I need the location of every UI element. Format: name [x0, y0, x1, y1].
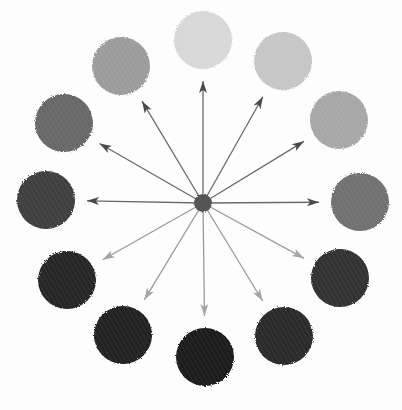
arrowhead-icon: [254, 97, 263, 109]
arrowhead-icon: [253, 289, 263, 301]
pencil-hatch-texture: [36, 95, 92, 151]
pencil-hatch-texture: [256, 308, 312, 364]
arrow-line: [103, 203, 203, 260]
arrow-line: [142, 101, 203, 203]
arrow-line: [203, 203, 204, 316]
pencil-hatch-texture: [95, 307, 151, 363]
arrow-line: [203, 203, 263, 301]
arrow-line: [203, 203, 304, 258]
pencil-hatch-texture: [311, 92, 367, 148]
arrow-line: [87, 201, 203, 203]
pencil-hatch-texture: [332, 174, 388, 230]
arrowhead-icon: [142, 101, 152, 113]
wheel-canvas: [0, 0, 402, 410]
arrowhead-icon: [100, 143, 112, 152]
arrowhead-icon: [103, 250, 115, 259]
arrow-line: [144, 203, 203, 300]
hub-node: [194, 194, 212, 212]
arrowhead-icon: [292, 249, 304, 258]
pencil-hatch-texture: [18, 172, 74, 228]
pencil-hatch-texture: [255, 33, 311, 89]
value-scale-wheel-diagram: [0, 0, 402, 410]
arrow-line: [100, 143, 203, 203]
pencil-hatch-texture: [93, 38, 149, 94]
arrow-line: [203, 202, 319, 203]
arrowhead-icon: [292, 141, 304, 151]
pencil-hatch-texture: [312, 250, 368, 306]
pencil-hatch-texture: [175, 12, 231, 68]
arrow-line: [203, 141, 304, 203]
arrowhead-icon: [144, 288, 154, 300]
pencil-hatch-texture: [177, 329, 233, 385]
arrow-line: [203, 97, 263, 203]
pencil-hatch-texture: [39, 252, 95, 308]
